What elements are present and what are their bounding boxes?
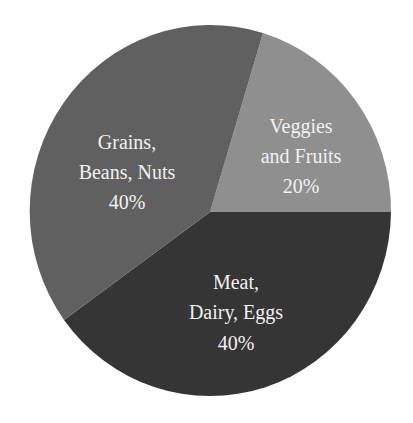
label-meat-pct: 40%: [218, 332, 255, 354]
label-veggies-line1: Veggies: [269, 115, 333, 138]
label-meat-line2: Dairy, Eggs: [189, 301, 283, 324]
pie-chart: Grains, Beans, Nuts 40% Veggies and Frui…: [0, 0, 413, 423]
label-meat-line1: Meat,: [213, 271, 259, 293]
label-grains-line2: Beans, Nuts: [79, 161, 176, 183]
label-grains-pct: 40%: [109, 191, 146, 213]
label-veggies-line2: and Fruits: [261, 145, 342, 167]
label-grains-line1: Grains,: [98, 131, 156, 153]
label-veggies-pct: 20%: [283, 175, 320, 197]
